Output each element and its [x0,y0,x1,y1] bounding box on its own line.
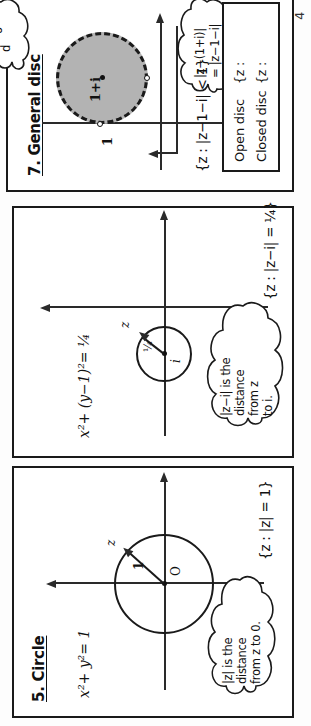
x-axis-arrow-icon [160,210,168,220]
cloud-callout: |z−i| is the distance from z to i. [204,298,286,432]
cloud-shape-icon [0,0,34,72]
panel-circle-about-i: x²+ (y−1)²= ¼ ¼ z i |z−i| is the distanc… [12,206,294,458]
page-number: 4 [292,12,307,20]
y-axis-arrow-icon [46,580,56,588]
origin-label: O [169,566,183,576]
panel-circle-i-cartesian-equation: x²+ (y−1)²= ¼ [76,333,92,438]
pointer-arrow-icon [148,150,158,158]
pointer-arrow-stem [156,152,177,154]
cloud-line-2: distance [234,370,247,416]
radius-label: ¼ [142,341,155,352]
cloud-line-2: distance [236,638,249,684]
legend-set-closed-disc: {z : [254,62,269,84]
legend-set-open-disc: {z : [232,62,247,84]
panel-circle-cartesian-equation: x²+ y²= 1 [76,630,92,698]
y-axis-arrow-icon [40,304,50,312]
cloud-clipped-line-2: o [0,27,5,34]
cloud-line-1: |z| is the [222,638,235,684]
panel-circle-title: 5. Circle [30,636,48,702]
boundary-hollow-dot-icon [97,121,103,127]
legend-box: Open disc {z : Closed disc {z : [222,2,280,172]
legend-row: Open disc {z : [232,62,247,162]
set-notation: {z : |z| = 1} [257,481,273,560]
origin-hollow-dot-icon [144,75,150,81]
set-notation: {z : |z−i| = ¼} [262,201,278,300]
cloud-line-1: |z−i| is the [220,358,233,416]
point-z-label: z [104,540,118,546]
radius-label: 1 [132,562,146,570]
legend-label-open-disc: Open disc [232,84,247,162]
x-axis [160,20,162,170]
cloud-line-4: to i. [262,395,275,416]
panel-general-disc: 7. General disc 1+i 1 |z−(1+i)| [6,0,294,192]
cloud-line-3: from z [248,381,261,416]
cloud-callout: |z| is the distance from z to 0. [206,572,278,700]
legend-label-closed-disc: Closed disc [254,84,269,162]
panel-general-disc-title: 7. General disc [26,54,44,176]
rotated-page-content: 5. Circle x²+ y²= 1 1 z O |z| is the [0,0,311,726]
panel-circle: 5. Circle x²+ y²= 1 1 z O |z| is the [12,466,294,718]
center-i-label: i [169,359,183,363]
point-z-label: z [118,322,132,328]
legend-row: Closed disc {z : [254,62,269,162]
x-axis-arrow-icon [160,472,168,482]
cloud-callout-clipped: d o [0,0,34,72]
cloud-clipped-line-1: d [0,45,13,52]
cloud-line-2: = |z−1−i| [209,24,222,78]
set-notation: {z : |z−1−i| < 1} [194,58,210,172]
center-1plusi-label: 1+i [88,77,103,102]
cloud-line-3: from z to 0. [250,621,263,684]
x-axis-arrow-icon [156,13,164,23]
scanned-page: 5. Circle x²+ y²= 1 1 z O |z| is the [0,0,311,726]
radius-label: 1 [100,137,115,146]
